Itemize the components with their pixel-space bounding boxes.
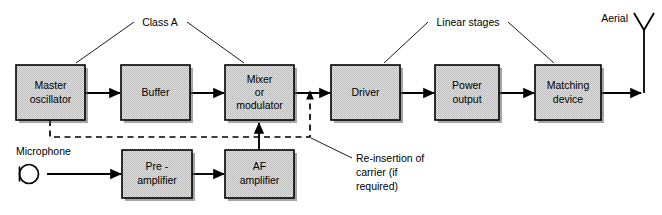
matching-device-label-line2: device (553, 93, 584, 105)
pre-amplifier-label-line1: Pre - (146, 160, 169, 172)
master-oscillator-label-line2: oscillator (30, 93, 72, 105)
annotation-reinsertion: Re-insertion of carrier (if required) (311, 138, 424, 192)
reinsertion-label-line3: required) (356, 180, 398, 192)
aerial-v-icon (634, 13, 654, 30)
block-diagram-canvas: Master oscillator Buffer Mixer or modula… (0, 0, 662, 215)
block-buffer: Buffer (121, 65, 193, 123)
block-power-output: Power output (435, 65, 502, 123)
microphone-symbol (20, 165, 39, 184)
af-amplifier-label-line2: amplifier (240, 174, 280, 186)
buffer-label: Buffer (142, 86, 170, 98)
class-a-leader-left (76, 22, 134, 63)
block-mixer-modulator: Mixer or modulator (225, 65, 297, 123)
microphone-label: Microphone (16, 145, 71, 157)
driver-label: Driver (352, 86, 381, 98)
aerial-label: Aerial (601, 12, 628, 24)
master-oscillator-label-line1: Master (34, 79, 67, 91)
block-pre-amplifier: Pre - amplifier (122, 150, 195, 201)
block-driver: Driver (331, 65, 403, 123)
mixer-modulator-label-line3: modulator (236, 99, 283, 111)
af-amplifier-label-line1: AF (253, 160, 266, 172)
annotation-class-a: Class A (76, 16, 244, 63)
block-master-oscillator: Master oscillator (16, 65, 88, 123)
matching-device-label-line1: Matching (547, 79, 590, 91)
power-output-label-line2: output (452, 93, 481, 105)
linear-stages-leader-right (508, 22, 554, 63)
linear-stages-leader-left (384, 22, 428, 63)
linear-stages-label: Linear stages (436, 16, 499, 28)
reinsertion-label-line2: carrier (if (356, 166, 397, 178)
block-matching-device: Matching device (535, 65, 604, 123)
reinsertion-label-line1: Re-insertion of (356, 152, 424, 164)
aerial-symbol (634, 13, 654, 93)
pre-amplifier-label-line2: amplifier (137, 174, 177, 186)
dashed-carrier-arrowhead (306, 90, 314, 100)
annotation-linear-stages: Linear stages (384, 16, 554, 63)
mixer-modulator-label-line1: Mixer (247, 73, 273, 85)
class-a-leader-right (187, 22, 244, 63)
reinsertion-leader-line (311, 138, 352, 158)
power-output-label-line1: Power (452, 79, 482, 91)
microphone-capsule-icon (20, 165, 39, 184)
mixer-modulator-label-line2: or (255, 86, 265, 98)
class-a-label: Class A (142, 16, 178, 28)
block-diagram-svg: Master oscillator Buffer Mixer or modula… (0, 0, 662, 215)
block-af-amplifier: AF amplifier (225, 150, 297, 201)
